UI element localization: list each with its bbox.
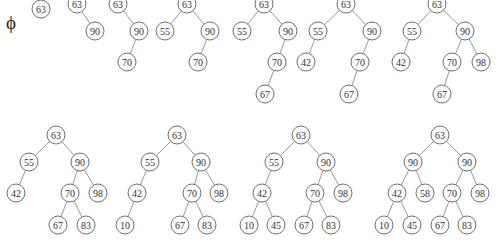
tree-edge <box>183 201 189 216</box>
tree-edge <box>469 39 477 54</box>
node-label: 55 <box>269 157 279 168</box>
tree-edge <box>193 11 204 24</box>
node-label: 90 <box>75 157 85 168</box>
tree-node: 55 <box>233 22 251 40</box>
tree-node: 63 <box>428 0 446 13</box>
node-label: 98 <box>338 188 348 199</box>
node-label: 90 <box>462 157 472 168</box>
tree-node: 10 <box>375 216 393 234</box>
node-label: 98 <box>475 188 485 199</box>
node-label: 42 <box>392 188 402 199</box>
tree-edge <box>387 201 393 216</box>
tree-node: 55 <box>403 22 421 40</box>
node-label: 67 <box>344 89 354 100</box>
tree-node: 42 <box>297 53 315 71</box>
node-label: 83 <box>202 220 212 231</box>
tree-edge <box>62 142 74 156</box>
node-label: 70 <box>310 188 320 199</box>
tree-edge <box>280 39 285 53</box>
tree-node: 98 <box>471 184 489 202</box>
tree-node: 90 <box>363 22 381 40</box>
tree-edge <box>206 170 215 185</box>
node-label: 70 <box>122 57 132 68</box>
tree-edge <box>401 170 409 185</box>
tree-node: 42 <box>128 184 146 202</box>
node-label: 10 <box>120 220 130 231</box>
tree-node: 63 <box>47 126 65 144</box>
node-label: 83 <box>81 220 91 231</box>
tree-edge <box>195 171 199 185</box>
tree-node: 55 <box>141 153 159 171</box>
tree-edge <box>456 170 463 185</box>
tree-node: 90 <box>86 22 104 40</box>
node-label: 42 <box>132 188 142 199</box>
node-label: 70 <box>65 188 75 199</box>
tree-node: 55 <box>309 22 327 40</box>
tree-node: 83 <box>198 216 216 234</box>
tree-edge <box>196 201 203 217</box>
node-label: 58 <box>420 188 430 199</box>
tree-node: 67 <box>433 85 451 103</box>
node-label: 42 <box>301 57 311 68</box>
tree-edge <box>270 11 282 25</box>
tree-edge <box>307 202 312 217</box>
tree-edge <box>445 71 450 86</box>
tree-node: 63 <box>337 0 355 13</box>
tree-node: 42 <box>392 53 410 71</box>
tree-edge <box>456 201 463 217</box>
tree-edge <box>82 11 90 23</box>
tree-edge <box>171 11 182 24</box>
node-label: 55 <box>313 26 323 37</box>
node-label: 55 <box>237 26 247 37</box>
tree-step-1: 63 <box>32 0 50 18</box>
tree-node: 83 <box>77 216 95 234</box>
tree-node: 70 <box>189 53 207 71</box>
tree-edge <box>309 39 315 53</box>
node-label: 90 <box>134 26 144 37</box>
tree-edge <box>61 201 67 216</box>
node-label: 63 <box>113 0 123 10</box>
tree-edge <box>455 39 461 53</box>
node-label: 55 <box>24 157 34 168</box>
node-label: 90 <box>196 157 206 168</box>
tree-node: 67 <box>431 216 449 234</box>
tree-node: 90 <box>279 22 297 40</box>
tree-node: 63 <box>109 0 127 13</box>
tree-step-8: 6355904270986783 <box>7 126 107 234</box>
node-label: 70 <box>355 57 365 68</box>
tree-edge <box>318 170 323 184</box>
node-label: 70 <box>447 57 457 68</box>
tree-edge <box>324 10 339 25</box>
tree-edge <box>416 170 422 184</box>
node-label: 63 <box>182 0 192 10</box>
tree-edge <box>266 201 273 217</box>
tree-edge <box>443 10 458 25</box>
tree-edge <box>363 39 369 53</box>
tree-step-6: 635590427067 <box>297 0 381 103</box>
tree-node: 98 <box>472 53 490 71</box>
tree-node: 63 <box>431 126 449 144</box>
tree-edge <box>446 141 460 155</box>
tree-node: 63 <box>178 0 196 13</box>
tree-edge <box>352 10 366 24</box>
tree-node: 10 <box>116 216 134 234</box>
tree-step-5: 6355907067 <box>233 0 297 103</box>
tree-node: 42 <box>253 184 271 202</box>
node-label: 90 <box>460 26 470 37</box>
node-label: 42 <box>257 188 267 199</box>
node-label: 90 <box>90 26 100 37</box>
node-label: 83 <box>326 220 336 231</box>
tree-node: 70 <box>118 53 136 71</box>
tree-edge <box>124 11 134 24</box>
tree-edge <box>418 11 431 25</box>
tree-edge <box>307 142 320 156</box>
tree-node: 70 <box>306 184 324 202</box>
node-label: 90 <box>321 157 331 168</box>
node-label: 63 <box>36 4 46 15</box>
node-label: 10 <box>379 220 389 231</box>
tree-edge <box>352 71 357 86</box>
tree-node: 90 <box>201 22 219 40</box>
tree-edge <box>73 171 77 185</box>
empty-tree-symbol: ϕ <box>6 12 16 33</box>
tree-node: 67 <box>171 216 189 234</box>
